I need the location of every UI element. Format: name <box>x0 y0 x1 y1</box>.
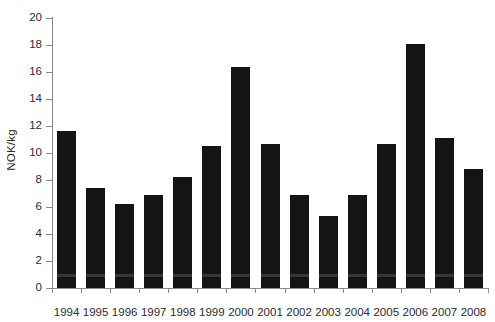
bar-compression-band <box>464 274 483 277</box>
x-axis-tick-label: 1997 <box>141 306 167 318</box>
y-axis-tick-label: 8 <box>36 173 42 185</box>
bar <box>86 188 105 288</box>
bar-compression-band <box>290 274 309 277</box>
y-axis-tick-label: 2 <box>36 254 42 266</box>
x-axis-tick <box>343 288 344 293</box>
bar-compression-band <box>173 274 192 277</box>
y-axis-tick-label: 14 <box>29 92 42 104</box>
y-axis-tick-label: 10 <box>29 146 42 158</box>
x-axis-tick <box>52 288 53 293</box>
bar <box>57 131 76 288</box>
x-axis-tick <box>226 288 227 293</box>
x-axis-tick <box>488 288 489 293</box>
x-axis-tick <box>168 288 169 293</box>
y-axis-tick: 6 <box>46 207 52 208</box>
plot-area: 0246810121416182019941995199619971998199… <box>52 18 488 288</box>
bar <box>290 195 309 288</box>
bar <box>406 44 425 288</box>
y-axis-tick-label: 20 <box>29 11 42 23</box>
bar-compression-band <box>57 274 76 277</box>
x-axis-tick <box>110 288 111 293</box>
y-axis-tick-label: 4 <box>36 227 42 239</box>
y-axis-tick-label: 18 <box>29 38 42 50</box>
bar-compression-band <box>86 274 105 277</box>
bar-compression-band <box>406 274 425 277</box>
bar <box>435 138 454 288</box>
bar-chart: NOK/kg 024681012141618201994199519961997… <box>0 0 495 322</box>
y-axis-tick: 2 <box>46 261 52 262</box>
x-axis-tick-label: 2005 <box>373 306 399 318</box>
bar-compression-band <box>261 274 280 277</box>
x-axis-tick-label: 1996 <box>112 306 138 318</box>
x-axis-line <box>52 288 489 289</box>
x-axis-tick <box>139 288 140 293</box>
y-axis-tick: 14 <box>46 99 52 100</box>
x-axis-tick <box>81 288 82 293</box>
x-axis-tick-label: 2002 <box>286 306 312 318</box>
y-axis-title: NOK/kg <box>0 0 22 300</box>
x-axis-tick-label: 2008 <box>461 306 487 318</box>
bar-compression-band <box>319 274 338 277</box>
x-axis-tick-label: 2007 <box>432 306 458 318</box>
x-axis-tick <box>430 288 431 293</box>
bar <box>202 146 221 288</box>
x-axis-tick <box>255 288 256 293</box>
bar-compression-band <box>144 274 163 277</box>
y-axis-tick: 18 <box>46 45 52 46</box>
y-axis-tick: 16 <box>46 72 52 73</box>
y-axis-tick: 12 <box>46 126 52 127</box>
x-axis-tick <box>401 288 402 293</box>
bar-compression-band <box>202 274 221 277</box>
bar <box>319 216 338 288</box>
x-axis-tick <box>197 288 198 293</box>
bar <box>115 204 134 288</box>
bar-compression-band <box>348 274 367 277</box>
y-axis-tick: 10 <box>46 153 52 154</box>
x-axis-tick-label: 2006 <box>403 306 429 318</box>
y-axis-title-label: NOK/kg <box>5 129 17 170</box>
y-axis-tick-label: 0 <box>36 281 42 293</box>
bar <box>144 195 163 288</box>
x-axis-tick-label: 2000 <box>228 306 254 318</box>
x-axis-tick-label: 2001 <box>257 306 283 318</box>
y-axis-tick: 20 <box>46 18 52 19</box>
x-axis-tick-label: 1999 <box>199 306 225 318</box>
x-axis-tick-label: 2003 <box>315 306 341 318</box>
x-axis-tick-label: 1994 <box>54 306 80 318</box>
x-axis-tick-label: 2004 <box>344 306 370 318</box>
y-axis-tick-label: 16 <box>29 65 42 77</box>
x-axis-tick-label: 1998 <box>170 306 196 318</box>
bar <box>173 177 192 288</box>
y-axis-tick: 4 <box>46 234 52 235</box>
bar-compression-band <box>377 274 396 277</box>
y-axis-tick-label: 6 <box>36 200 42 212</box>
x-axis-tick <box>372 288 373 293</box>
x-axis-tick-label: 1995 <box>83 306 109 318</box>
y-axis-tick: 8 <box>46 180 52 181</box>
bar-compression-band <box>231 274 250 277</box>
bar <box>464 169 483 288</box>
bar <box>348 195 367 288</box>
x-axis-tick <box>285 288 286 293</box>
x-axis-tick <box>459 288 460 293</box>
y-axis-tick-label: 12 <box>29 119 42 131</box>
bar-compression-band <box>115 274 134 277</box>
bar <box>231 67 250 288</box>
x-axis-tick <box>314 288 315 293</box>
bar <box>261 144 280 288</box>
bar <box>377 144 396 288</box>
bar-compression-band <box>435 274 454 277</box>
